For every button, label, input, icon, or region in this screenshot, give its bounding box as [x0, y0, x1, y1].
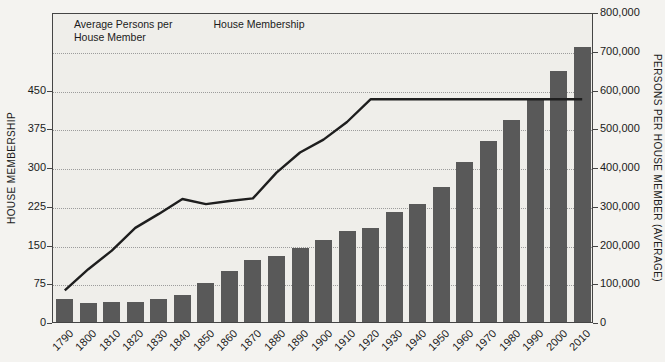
bar — [244, 260, 261, 322]
x-axis-label: 1950 — [426, 327, 452, 353]
bar — [386, 212, 403, 322]
right-axis-tick — [593, 52, 598, 53]
left-axis-tick-label: 225 — [0, 200, 46, 213]
bar — [574, 47, 591, 322]
x-axis-label: 1910 — [332, 327, 358, 353]
right-axis-tick — [593, 323, 598, 324]
x-axis-label: 1790 — [49, 327, 75, 353]
right-axis-tick-label: 500,000 — [600, 122, 640, 135]
x-axis-label: 1820 — [120, 327, 146, 353]
left-axis-tick — [47, 323, 52, 324]
left-axis-tick-label: 0 — [0, 316, 46, 329]
right-axis-tick-label: 0 — [600, 316, 606, 329]
bar — [456, 162, 473, 322]
x-axis-label: 1900 — [308, 327, 334, 353]
gridline — [53, 53, 592, 54]
right-axis-tick — [593, 91, 598, 92]
right-axis-tick-label: 700,000 — [600, 45, 640, 58]
x-axis-label: 1990 — [520, 327, 546, 353]
bar — [339, 231, 356, 322]
x-axis-label: 1860 — [214, 327, 240, 353]
x-axis-label: 1920 — [355, 327, 381, 353]
legend-line-label: House Membership — [213, 18, 304, 31]
bar — [221, 271, 238, 322]
x-axis-label: 1970 — [473, 327, 499, 353]
gridline — [53, 92, 592, 93]
bar — [174, 295, 191, 323]
left-axis-tick-label: 150 — [0, 239, 46, 252]
x-axis-label: 2000 — [543, 327, 569, 353]
bar — [56, 299, 73, 322]
right-axis-title: PERSONS PER HOUSE MEMBER (AVERAGE) — [652, 54, 663, 282]
x-axis-label: 1810 — [96, 327, 122, 353]
right-axis-tick-label: 200,000 — [600, 239, 640, 252]
right-axis-tick — [593, 129, 598, 130]
right-axis-tick — [593, 207, 598, 208]
x-axis-label: 1840 — [167, 327, 193, 353]
bar — [127, 302, 144, 322]
bar — [550, 71, 567, 322]
left-axis-tick-label: 450 — [0, 84, 46, 97]
left-axis-tick — [47, 168, 52, 169]
x-axis-label: 2010 — [567, 327, 593, 353]
bar — [409, 204, 426, 322]
x-axis-label: 1830 — [143, 327, 169, 353]
x-axis-label: 1800 — [73, 327, 99, 353]
right-axis-tick — [593, 284, 598, 285]
left-axis-tick — [47, 129, 52, 130]
line-swatch-icon — [194, 23, 207, 26]
right-axis-tick — [593, 13, 598, 14]
x-axis-label: 1940 — [402, 327, 428, 353]
bar — [268, 256, 285, 322]
x-axis-label: 1890 — [285, 327, 311, 353]
x-axis-label: 1880 — [261, 327, 287, 353]
left-axis-tick — [47, 207, 52, 208]
right-axis-tick-label: 400,000 — [600, 161, 640, 174]
bar — [480, 141, 497, 322]
x-axis-label: 1930 — [379, 327, 405, 353]
right-axis-tick — [593, 246, 598, 247]
right-axis-tick-label: 300,000 — [600, 200, 640, 213]
bar — [292, 248, 309, 322]
bar — [80, 303, 97, 322]
legend-item-line: House Membership — [194, 18, 304, 31]
left-axis-tick-label: 75 — [0, 277, 46, 290]
legend: Average Persons perHouse Member House Me… — [59, 18, 305, 43]
x-axis-label: 1870 — [238, 327, 264, 353]
chart: Average Persons perHouse Member House Me… — [0, 0, 665, 362]
left-axis-tick — [47, 284, 52, 285]
right-axis-tick-label: 800,000 — [600, 6, 640, 19]
left-axis-tick-label: 375 — [0, 122, 46, 135]
bar — [503, 120, 520, 322]
legend-bar-label-line2: House Member — [74, 31, 146, 43]
left-axis-tick — [47, 91, 52, 92]
x-axis-label: 1850 — [191, 327, 217, 353]
bar — [103, 302, 120, 322]
legend-bar-label: Average Persons perHouse Member — [74, 18, 172, 43]
legend-bar-label-line1: Average Persons per — [74, 18, 172, 30]
legend-item-bar: Average Persons perHouse Member — [59, 18, 172, 43]
plot-area: Average Persons perHouse Member House Me… — [52, 13, 593, 323]
bar-swatch-icon — [59, 20, 68, 29]
bar — [527, 100, 544, 322]
x-axis-label: 1960 — [449, 327, 475, 353]
left-axis-tick-label: 300 — [0, 161, 46, 174]
x-axis-label: 1980 — [496, 327, 522, 353]
bar — [362, 228, 379, 323]
bar — [197, 283, 214, 322]
bar — [433, 187, 450, 322]
right-axis-tick-label: 100,000 — [600, 277, 640, 290]
left-axis-tick — [47, 246, 52, 247]
bar — [150, 299, 167, 322]
right-axis-tick-label: 600,000 — [600, 84, 640, 97]
bar — [315, 240, 332, 323]
right-axis-tick — [593, 168, 598, 169]
